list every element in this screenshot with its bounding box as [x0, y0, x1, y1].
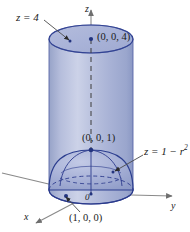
- label-x-axis: x: [24, 212, 28, 222]
- label-paraboloid-exponent: 2: [184, 143, 188, 152]
- point-marker-001: [89, 148, 94, 153]
- label-plane-top: z = 4: [16, 12, 39, 23]
- label-point-base: (1, 0, 0): [69, 213, 102, 224]
- label-paraboloid-equation-text: z = 1 − r: [144, 145, 184, 157]
- label-paraboloid-equation: z = 1 − r2: [144, 144, 188, 157]
- label-origin: 0: [85, 193, 90, 202]
- label-point-apex: (0, 0, 1): [82, 133, 115, 144]
- paraboloid-pointer-dot: [112, 171, 115, 174]
- label-y-axis: y: [171, 201, 175, 211]
- label-z-axis: z: [85, 4, 89, 14]
- diagram-svg: [0, 0, 190, 232]
- point-marker-004: [89, 37, 93, 41]
- figure-canvas: z = 4 (0, 0, 4) (0, 0, 1) z = 1 − r2 (1,…: [0, 0, 190, 232]
- label-point-top: (0, 0, 4): [97, 32, 130, 43]
